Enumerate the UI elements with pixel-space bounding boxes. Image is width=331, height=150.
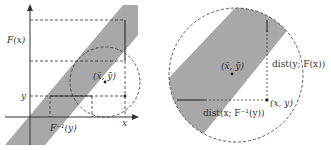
x-axis-arrow-icon <box>132 114 139 120</box>
label-dist-x: dist(x; F⁻¹(y)) <box>203 108 265 118</box>
label-y: y <box>20 91 27 101</box>
right-panel: (x̄, ȳ) (x, y) dist(y; F(x)) dist(x; F⁻¹… <box>110 0 325 150</box>
label-Fx: F(x) <box>6 35 26 45</box>
label-point-xy: (x, y) <box>270 98 293 108</box>
label-center-zoomed: (x̄, ȳ) <box>221 61 244 71</box>
label-center: (x̄, ȳ) <box>93 71 116 81</box>
label-Finv-y: F⁻¹(y) <box>49 123 77 133</box>
left-panel: F(x) y x F⁻¹(y) (x̄, ȳ) <box>5 4 140 145</box>
label-x: x <box>122 118 127 128</box>
diagram: F(x) y x F⁻¹(y) (x̄, ȳ) (x̄, ȳ) (x, y) d… <box>0 0 331 150</box>
center-point-zoomed <box>231 73 234 76</box>
label-dist-y: dist(y; F(x)) <box>272 59 325 69</box>
y-axis-arrow-icon <box>27 4 33 11</box>
point-xy-zoomed <box>265 98 268 101</box>
center-point <box>104 81 107 84</box>
point-xy <box>124 95 127 98</box>
graph-band-zoomed <box>110 0 320 150</box>
